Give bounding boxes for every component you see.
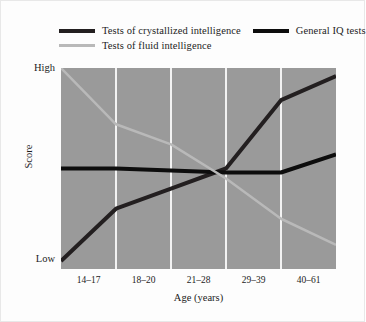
x-axis-label: Age (years): [61, 292, 336, 303]
y-tick-high: High: [15, 62, 55, 73]
x-tick-0: 14–17: [77, 275, 101, 285]
legend-label-crystallized: Tests of crystallized intelligence: [102, 25, 241, 36]
series-layer: [61, 68, 336, 269]
x-tick-3: 29–39: [242, 275, 266, 285]
x-tick-2: 21–28: [187, 275, 211, 285]
legend-swatch-crystallized: [59, 29, 95, 33]
x-tick-1: 18–20: [132, 275, 156, 285]
plot-area: [61, 68, 336, 269]
y-axis-label: Score: [23, 122, 34, 192]
legend-row-top: Tests of crystallized intelligence Gener…: [59, 23, 359, 38]
legend-item-crystallized: Tests of crystallized intelligence: [59, 25, 241, 36]
legend-label-general-iq: General IQ tests: [296, 25, 366, 36]
x-tick-4: 40–61: [297, 275, 321, 285]
y-tick-low: Low: [15, 253, 55, 264]
chart-legend: Tests of crystallized intelligence Gener…: [59, 23, 359, 53]
legend-label-fluid: Tests of fluid intelligence: [102, 40, 212, 51]
series-line-general-iq-tests: [61, 154, 336, 172]
legend-item-fluid: Tests of fluid intelligence: [59, 40, 212, 51]
legend-swatch-general-iq: [253, 29, 289, 33]
x-axis-ticks: 14–1718–2021–2829–3940–61: [61, 275, 336, 289]
legend-item-general-iq: General IQ tests: [253, 25, 366, 36]
legend-swatch-fluid: [59, 44, 95, 47]
legend-row-bottom: Tests of fluid intelligence: [59, 38, 359, 53]
